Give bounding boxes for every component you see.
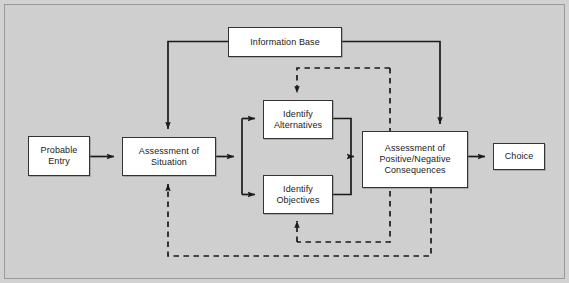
node-information-base-label: Information Base: [248, 37, 322, 48]
node-assessment-of-situation[interactable]: Assessment ofSituation: [122, 137, 216, 176]
node-identify-objectives-line2: Objectives: [274, 195, 321, 206]
node-assessment-of-situation-label: Assessment ofSituation: [135, 146, 203, 168]
node-identify-alternatives-label: IdentifyAlternatives: [270, 109, 326, 131]
node-identify-alternatives-line1: Identify: [272, 109, 324, 120]
node-choice-label: Choice: [503, 151, 536, 162]
node-identify-objectives[interactable]: IdentifyObjectives: [263, 175, 333, 214]
node-identify-objectives-line1: Identify: [274, 184, 321, 195]
node-probable-entry[interactable]: ProbableEntry: [28, 136, 90, 176]
node-assessment-of-consequences-line1: Assessment of: [377, 143, 452, 154]
node-probable-entry-label: ProbableEntry: [37, 145, 82, 167]
node-identify-alternatives-line2: Alternatives: [272, 120, 324, 131]
node-assessment-of-consequences[interactable]: Assessment ofPositive/NegativeConsequenc…: [362, 131, 468, 188]
node-probable-entry-line2: Entry: [39, 156, 80, 167]
node-assessment-of-consequences-label: Assessment ofPositive/NegativeConsequenc…: [375, 143, 454, 176]
node-probable-entry-line1: Probable: [39, 145, 80, 156]
node-assessment-of-situation-line1: Assessment of: [137, 146, 201, 157]
node-assessment-of-situation-line2: Situation: [137, 157, 201, 168]
diagram-stage: ProbableEntry Assessment ofSituation Inf…: [0, 0, 569, 283]
node-assessment-of-consequences-line2: Positive/Negative: [377, 154, 452, 165]
node-information-base[interactable]: Information Base: [228, 27, 342, 57]
node-identify-objectives-label: IdentifyObjectives: [272, 184, 323, 206]
node-identify-alternatives[interactable]: IdentifyAlternatives: [263, 100, 333, 139]
node-choice[interactable]: Choice: [493, 143, 545, 170]
node-assessment-of-consequences-line3: Consequences: [377, 165, 452, 176]
